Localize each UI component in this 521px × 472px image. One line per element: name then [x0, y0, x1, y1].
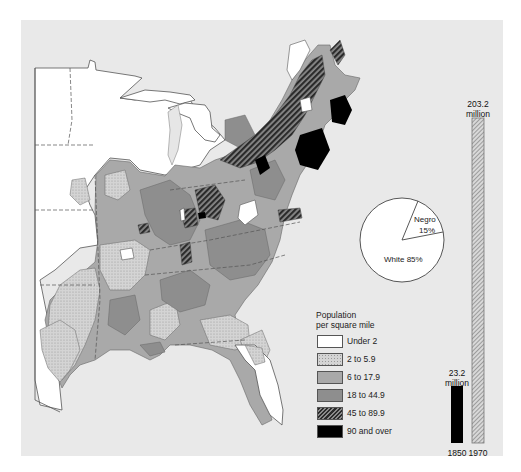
legend-swatch [317, 353, 343, 366]
population-density-map: Negro 15% White 85% [0, 0, 521, 472]
bar-1850 [451, 386, 463, 443]
pie-label-negro: Negro [414, 215, 436, 224]
bar-1850-value-number: 23.2 [437, 368, 477, 378]
legend-title: Population per square mile [316, 310, 375, 330]
legend-title-line2: per square mile [316, 320, 375, 330]
bar-1970-year: 1970 [462, 448, 494, 458]
legend-label: 90 and over [347, 426, 392, 436]
legend-label: Under 2 [347, 336, 377, 346]
legend-item-2-to-5-9: 2 to 5.9 [317, 352, 375, 366]
legend-swatch [317, 335, 343, 348]
legend-swatch [317, 407, 343, 420]
bar-1970 [472, 118, 484, 443]
pie-value-negro: 15% [419, 226, 435, 235]
legend-swatch [317, 371, 343, 384]
legend-item-90-and-over: 90 and over [317, 424, 392, 438]
population-bar-chart [451, 118, 484, 443]
legend-label: 45 to 89.9 [347, 408, 385, 418]
legend-item-45-to-89-9: 45 to 89.9 [317, 406, 385, 420]
bar-1850-value-unit: million [437, 378, 477, 388]
bar-1850-value: 23.2 million [437, 368, 477, 388]
bar-1970-value: 203.2 million [458, 99, 498, 119]
legend-title-line1: Population [316, 310, 375, 320]
legend-item-6-to-17-9: 6 to 17.9 [317, 370, 380, 384]
map-land [35, 40, 360, 425]
pie-label-white: White 85% [384, 255, 423, 264]
legend-swatch [317, 425, 343, 438]
legend-swatch [317, 389, 343, 402]
legend-label: 6 to 17.9 [347, 372, 380, 382]
bar-1970-value-number: 203.2 [458, 99, 498, 109]
legend-label: 2 to 5.9 [347, 354, 375, 364]
legend-item-under-2: Under 2 [317, 334, 377, 348]
legend-label: 18 to 44.9 [347, 390, 385, 400]
legend-item-18-to-44-9: 18 to 44.9 [317, 388, 385, 402]
race-pie-chart: Negro 15% White 85% [360, 198, 444, 282]
bar-1970-value-unit: million [458, 109, 498, 119]
